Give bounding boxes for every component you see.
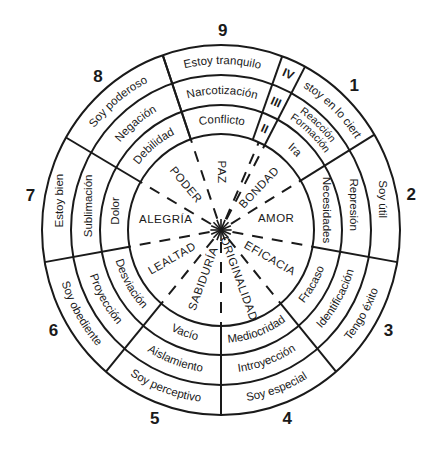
sector-2-ring3-label: Represión xyxy=(348,178,360,230)
sector-7-ring4-label: Estoy bien xyxy=(53,174,65,228)
sector-1-ring2-label: Ira xyxy=(286,140,305,159)
sector-1-number: 1 xyxy=(349,76,358,95)
sector-5-virtue-label: SABIDURÍA xyxy=(186,245,220,312)
sector-divider-line xyxy=(66,138,141,183)
enneagram-wheel-diagram: Estoy tranquiloNarcotizaciónConflictoPAZ… xyxy=(0,0,442,458)
sector-7-number: 7 xyxy=(26,186,35,205)
level-numeral-III: III xyxy=(269,94,284,111)
sector-9-number: 9 xyxy=(218,21,227,40)
sector-3-number: 3 xyxy=(384,321,393,340)
sector-9-ring4-label: Estoy tranquilo xyxy=(182,54,262,71)
sector-6-virtue-label: LEALTAD xyxy=(146,240,198,277)
level-numeral-II: II xyxy=(259,121,271,137)
sector-7-ring2-label: Dolor xyxy=(109,197,121,225)
sector-2-ring4-label: Soy útil xyxy=(377,180,389,218)
sector-1-virtue-label: BONDAD xyxy=(237,164,282,210)
sector-8-ring3-label: Negación xyxy=(113,103,158,144)
sector-9-virtue-label: PAZ xyxy=(216,160,228,183)
sector-2-virtue-label: AMOR xyxy=(258,212,295,224)
dashed-spoke xyxy=(130,232,210,247)
sector-divider-line xyxy=(312,247,397,262)
sector-5-ring4-label: Soy perceptivo xyxy=(129,367,202,404)
sector-9-ring3-label: Narcotización xyxy=(185,84,259,101)
sector-9-ring2-label: Conflicto xyxy=(198,113,246,128)
sector-6-number: 6 xyxy=(49,321,58,340)
sector-5-ring2-label: Vacío xyxy=(170,321,200,342)
sector-2-ring2-label: Necesidades xyxy=(321,177,333,244)
dashed-spoke xyxy=(191,139,217,218)
sector-divider-line xyxy=(45,247,130,262)
sector-4-number: 4 xyxy=(282,409,292,428)
sector-7-virtue-label: ALEGRÍA xyxy=(139,213,192,225)
sector-8-virtue-label: PODER xyxy=(168,164,205,205)
sector-2-number: 2 xyxy=(407,185,416,204)
level-numeral-IV: IV xyxy=(280,65,296,82)
sector-3-virtue-label: EFICACIA xyxy=(242,239,297,278)
sector-7-ring3-label: Sublimación xyxy=(82,175,94,238)
sector-8-ring2-label: Debilidad xyxy=(131,125,176,166)
sector-5-number: 5 xyxy=(150,409,159,428)
sector-divider-line xyxy=(301,135,375,181)
sector-8-number: 8 xyxy=(93,67,102,86)
sector-labels: Estoy tranquiloNarcotizaciónConflictoPAZ… xyxy=(0,0,416,428)
